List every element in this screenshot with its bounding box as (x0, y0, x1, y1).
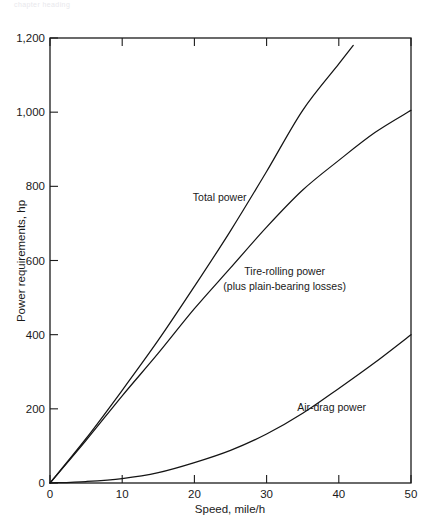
x-axis-ticks (50, 38, 411, 483)
x-tick-label-30: 30 (260, 488, 273, 500)
power-requirements-chart: 02004006008001,0001,200 01020304050 Tota… (0, 0, 439, 529)
x-tick-label-20: 20 (188, 488, 201, 500)
y-tick-label-200: 200 (26, 403, 45, 415)
data-series-group (50, 45, 411, 483)
x-axis-tick-labels: 01020304050 (47, 488, 418, 500)
series-annotations-group: Total powerTire-rolling power(plus plain… (193, 191, 367, 413)
y-tick-label-400: 400 (26, 329, 45, 341)
y-tick-label-600: 600 (26, 255, 45, 267)
series-annotation-2: Tire-rolling power (244, 265, 325, 277)
series-curve-2 (50, 110, 411, 483)
faint-header-text: chapter heading (14, 1, 70, 8)
series-annotation-3: (plus plain-bearing losses) (223, 280, 346, 292)
y-tick-label-1200: 1,200 (16, 32, 45, 44)
y-tick-label-1000: 1,000 (16, 106, 45, 118)
series-curve-1 (50, 45, 353, 483)
plot-frame (50, 38, 411, 483)
figure-canvas: chapter heading 02004006008001,0001,200 … (0, 0, 439, 529)
x-axis-title: Speed, mile/h (195, 503, 265, 515)
x-tick-label-50: 50 (405, 488, 418, 500)
x-tick-label-40: 40 (332, 488, 345, 500)
x-tick-label-0: 0 (47, 488, 53, 500)
y-axis-ticks (50, 38, 58, 483)
y-axis-title: Power requirements, hp (15, 200, 27, 322)
y-tick-label-800: 800 (26, 180, 45, 192)
series-annotation-1: Total power (193, 191, 247, 203)
x-tick-label-10: 10 (116, 488, 129, 500)
series-annotation-4: Air-drag power (297, 401, 366, 413)
y-tick-label-0: 0 (39, 477, 45, 489)
